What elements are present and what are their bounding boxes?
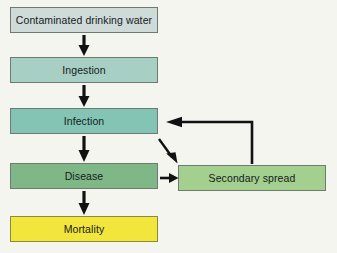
- node-ingestion[interactable]: Ingestion: [10, 57, 158, 83]
- node-disease[interactable]: Disease: [10, 163, 158, 189]
- connector-water-to-ingestion: [79, 35, 90, 56]
- node-mortality-label: Mortality: [64, 224, 105, 235]
- connector-disease-to-secondary-spread: [160, 173, 179, 183]
- connector-infection-to-disease: [79, 136, 90, 162]
- connector-infection-to-secondary-spread: [159, 139, 178, 164]
- connector-ingestion-to-infection: [79, 85, 90, 107]
- connector-secondary-spread-to-infection: [166, 117, 252, 164]
- node-ingestion-label: Ingestion: [62, 65, 106, 76]
- node-secondary-spread[interactable]: Secondary spread: [178, 165, 326, 191]
- flowchart-diagram: Contaminated drinking water Ingestion In…: [0, 0, 337, 253]
- node-contaminated-water[interactable]: Contaminated drinking water: [10, 7, 158, 33]
- node-secondary-spread-label: Secondary spread: [209, 173, 296, 184]
- node-infection[interactable]: Infection: [10, 108, 158, 134]
- connector-disease-to-mortality: [79, 191, 90, 215]
- node-infection-label: Infection: [64, 116, 105, 127]
- node-mortality[interactable]: Mortality: [10, 216, 158, 242]
- node-disease-label: Disease: [65, 171, 104, 182]
- node-contaminated-water-label: Contaminated drinking water: [16, 15, 152, 26]
